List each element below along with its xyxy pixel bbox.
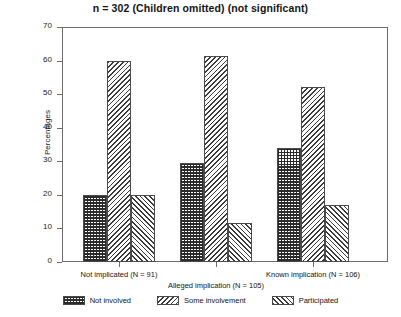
x-axis-group-label: Not implicated (N = 91) <box>39 270 199 279</box>
bar-1-not-involved <box>83 195 107 262</box>
legend-label: Not involved <box>90 296 131 305</box>
bar-2-not-involved <box>180 163 204 262</box>
x-axis-group-label: Known implication (N = 106) <box>233 270 393 279</box>
legend-item-not-involved: Not involved <box>63 296 131 305</box>
x-axis-group-label: Alleged implication (N = 105) <box>136 281 296 290</box>
x-axis-tick-mark <box>313 262 314 267</box>
bar-chart: n = 302 (Children omitted) (not signific… <box>0 0 401 317</box>
legend-item-some-involvement: Some involvement <box>157 296 246 305</box>
bars-layer <box>62 27 388 262</box>
y-axis-tick-label: 70 <box>43 21 52 31</box>
bar-1-some-involvement <box>107 61 131 262</box>
legend-swatch-icon <box>272 296 294 305</box>
bar-2-some-involvement <box>204 56 228 262</box>
bar-3-not-involved <box>277 148 301 262</box>
legend-swatch-icon <box>157 296 179 305</box>
legend-swatch-icon <box>63 296 85 305</box>
x-axis-tick-mark <box>216 262 217 267</box>
bar-2-participated <box>228 223 252 262</box>
bar-1-participated <box>131 195 155 262</box>
legend-label: Participated <box>299 296 339 305</box>
y-axis-tick-label: 40 <box>43 122 52 132</box>
y-axis-tick-label: 50 <box>43 88 52 98</box>
bar-3-some-involvement <box>301 87 325 262</box>
y-axis-tick-label: 60 <box>43 55 52 65</box>
legend-item-participated: Participated <box>272 296 339 305</box>
legend-label: Some involvement <box>184 296 246 305</box>
bar-3-participated <box>325 205 349 262</box>
chart-title: n = 302 (Children omitted) (not signific… <box>0 2 401 14</box>
y-axis-tick-label: 0 <box>48 256 52 266</box>
y-axis-tick-label: 20 <box>43 189 52 199</box>
x-axis-tick-mark <box>119 262 120 267</box>
y-axis-tick-label: 30 <box>43 155 52 165</box>
legend: Not involvedSome involvementParticipated <box>0 296 401 305</box>
y-axis-tick-mark <box>57 262 62 263</box>
y-axis-tick-label: 10 <box>43 222 52 232</box>
